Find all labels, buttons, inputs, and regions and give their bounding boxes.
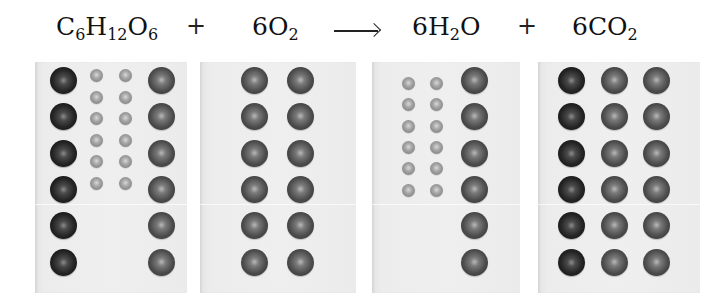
hydrogen-atom bbox=[90, 134, 103, 147]
oxygen-atom bbox=[643, 249, 670, 276]
hydrogen-atom bbox=[90, 112, 103, 125]
oxygen-atom bbox=[601, 140, 628, 167]
oxygen-atom bbox=[643, 176, 670, 203]
hydrogen-atom bbox=[402, 120, 415, 133]
carbon-atom bbox=[558, 176, 585, 203]
carbon-atom bbox=[558, 103, 585, 130]
plus-sign: + bbox=[517, 12, 537, 40]
hydrogen-atom bbox=[402, 184, 415, 197]
hydrogen-atom bbox=[119, 91, 132, 104]
oxygen-atom bbox=[287, 212, 314, 239]
carbon-dioxide-formula: 6CO2 bbox=[572, 12, 638, 41]
hydrogen-atom bbox=[430, 120, 443, 133]
hydrogen-atom bbox=[119, 177, 132, 190]
oxygen-atom bbox=[287, 140, 314, 167]
hydrogen-atom bbox=[90, 155, 103, 168]
oxygen-atom bbox=[148, 140, 175, 167]
glucose-formula: C6H12O6 bbox=[56, 12, 158, 41]
oxygen-formula: 6O2 bbox=[252, 12, 299, 41]
oxygen-atom bbox=[148, 67, 175, 94]
oxygen-atom bbox=[461, 140, 488, 167]
hydrogen-atom bbox=[402, 141, 415, 154]
plus-sign: + bbox=[186, 12, 206, 40]
hydrogen-atom bbox=[430, 98, 443, 111]
oxygen-atom bbox=[643, 140, 670, 167]
carbon-atom bbox=[50, 212, 77, 239]
oxygen-atom bbox=[241, 176, 268, 203]
hydrogen-atom bbox=[119, 112, 132, 125]
reaction-arrow-icon bbox=[334, 30, 378, 32]
hydrogen-atom bbox=[402, 162, 415, 175]
carbon-atom bbox=[558, 140, 585, 167]
oxygen-atom bbox=[287, 176, 314, 203]
water-formula: 6H2O bbox=[412, 12, 480, 41]
oxygen-atom bbox=[461, 67, 488, 94]
hydrogen-atom bbox=[90, 177, 103, 190]
oxygen-atom bbox=[461, 103, 488, 130]
hydrogen-atom bbox=[430, 141, 443, 154]
oxygen-atom bbox=[601, 103, 628, 130]
oxygen-atom bbox=[643, 212, 670, 239]
oxygen-atom bbox=[241, 67, 268, 94]
water-panel bbox=[372, 62, 520, 293]
hydrogen-atom bbox=[430, 162, 443, 175]
oxygen-atom bbox=[461, 176, 488, 203]
hydrogen-atom bbox=[430, 77, 443, 90]
oxygen-atom bbox=[148, 176, 175, 203]
oxygen-atom bbox=[461, 249, 488, 276]
oxygen-atom bbox=[287, 67, 314, 94]
oxygen-atom bbox=[601, 249, 628, 276]
oxygen-atom bbox=[148, 249, 175, 276]
oxygen-panel bbox=[200, 62, 356, 293]
carbon-atom bbox=[558, 67, 585, 94]
carbon-atom bbox=[50, 176, 77, 203]
hydrogen-atom bbox=[90, 69, 103, 82]
carbon-atom bbox=[558, 212, 585, 239]
oxygen-atom bbox=[148, 212, 175, 239]
carbon-atom bbox=[50, 140, 77, 167]
hydrogen-atom bbox=[430, 184, 443, 197]
chemical-equation: C6H12O6 + 6O2 6H2O + 6CO2 bbox=[0, 0, 715, 60]
hydrogen-atom bbox=[119, 69, 132, 82]
oxygen-atom bbox=[601, 176, 628, 203]
hydrogen-atom bbox=[90, 91, 103, 104]
oxygen-atom bbox=[148, 103, 175, 130]
oxygen-atom bbox=[643, 67, 670, 94]
oxygen-atom bbox=[241, 249, 268, 276]
carbon-atom bbox=[50, 249, 77, 276]
carbon-atom bbox=[558, 249, 585, 276]
oxygen-atom bbox=[461, 212, 488, 239]
oxygen-atom bbox=[241, 140, 268, 167]
carbon-atom bbox=[50, 67, 77, 94]
oxygen-atom bbox=[601, 212, 628, 239]
hydrogen-atom bbox=[119, 134, 132, 147]
carbon-atom bbox=[50, 103, 77, 130]
hydrogen-atom bbox=[119, 155, 132, 168]
oxygen-atom bbox=[643, 103, 670, 130]
oxygen-atom bbox=[241, 103, 268, 130]
oxygen-atom bbox=[601, 67, 628, 94]
oxygen-atom bbox=[287, 103, 314, 130]
hydrogen-atom bbox=[402, 98, 415, 111]
oxygen-atom bbox=[241, 212, 268, 239]
hydrogen-atom bbox=[402, 77, 415, 90]
oxygen-atom bbox=[287, 249, 314, 276]
